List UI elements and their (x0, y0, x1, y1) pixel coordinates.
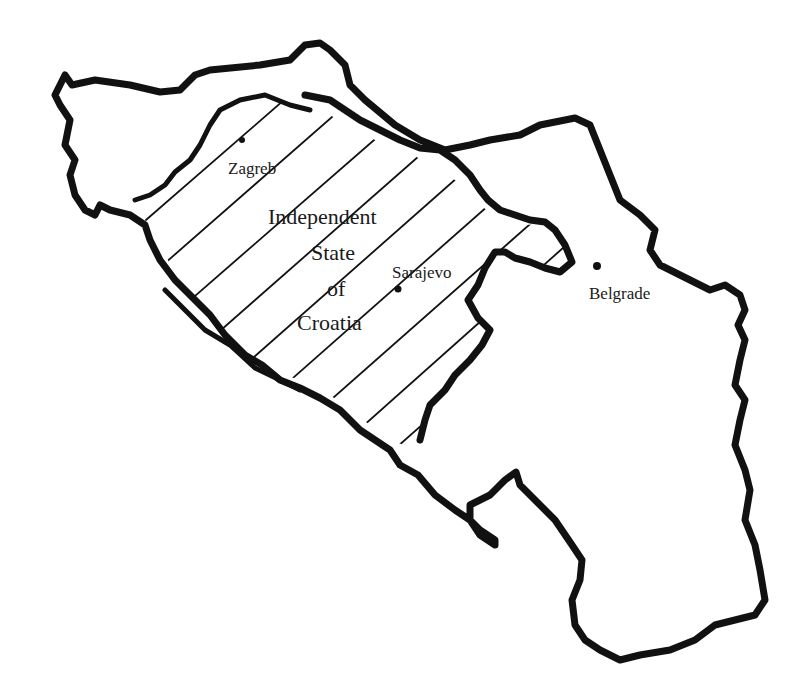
sarajevo-label: Sarajevo (392, 264, 451, 281)
region-label-line-4: Croatia (297, 312, 362, 334)
yugoslavia-map: Zagreb Sarajevo Belgrade Independent Sta… (0, 0, 811, 699)
region-label-line-2: State (311, 242, 355, 264)
map-svg (0, 0, 811, 699)
croatia-western-border (135, 95, 310, 200)
yugoslavia-outer-border (55, 43, 765, 660)
sarajevo-dot (395, 286, 402, 293)
region-label-line-3: of (327, 278, 345, 300)
region-label-line-1: Independent (268, 206, 377, 228)
zagreb-label: Zagreb (228, 160, 276, 177)
belgrade-label: Belgrade (589, 285, 650, 302)
belgrade-dot (593, 262, 601, 270)
zagreb-dot (239, 137, 245, 143)
